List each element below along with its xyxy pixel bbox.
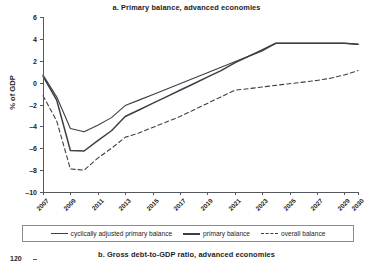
legend-label: cyclically adjusted primary balance — [71, 230, 173, 237]
x-tick-mark — [153, 192, 154, 195]
x-tick-mark — [70, 192, 71, 195]
x-tick-mark — [207, 192, 208, 195]
panel-b-title: b. Gross debt-to-GDP ratio, advanced eco… — [0, 250, 373, 259]
chart-legend: cyclically adjusted primary balanceprima… — [22, 225, 354, 242]
x-tick-mark — [43, 192, 44, 195]
panel-b-first-ytick-mark — [33, 259, 37, 260]
x-axis-ticks-panel-a: 2007200920112013201520172019202120232025… — [43, 192, 358, 224]
legend-label: primary balance — [203, 230, 250, 237]
x-tick-label: 2013 — [112, 197, 133, 218]
x-tick-label: 2023 — [249, 197, 270, 218]
panel-a-title: a. Primary balance, advanced economies — [0, 3, 373, 12]
x-tick-mark — [125, 192, 126, 195]
legend-label: overall balance — [281, 230, 325, 237]
y-tick-label: –2 — [29, 101, 37, 108]
x-tick-mark — [317, 192, 318, 195]
panel-b-first-ytick-label: 120 — [10, 255, 22, 262]
x-tick-label: 2017 — [166, 197, 187, 218]
x-tick-label: 2007 — [29, 197, 50, 218]
legend-item[interactable]: cyclically adjusted primary balance — [51, 230, 173, 237]
y-tick-label: 4 — [33, 35, 37, 42]
y-axis-ticks-panel-a: 6420–2–4–6–8–10 — [0, 17, 43, 192]
x-tick-label: 2025 — [276, 197, 297, 218]
x-tick-label: 2021 — [221, 197, 242, 218]
legend-swatch-icon — [183, 233, 200, 235]
y-tick-label: –6 — [29, 145, 37, 152]
x-tick-mark — [344, 192, 345, 195]
x-tick-label: 2011 — [84, 197, 105, 218]
y-tick-label: 0 — [33, 79, 37, 86]
legend-swatch-icon — [51, 233, 68, 234]
x-tick-label: 2027 — [303, 197, 324, 218]
x-tick-mark — [98, 192, 99, 195]
x-tick-mark — [290, 192, 291, 195]
legend-item[interactable]: overall balance — [261, 230, 325, 237]
legend-item[interactable]: primary balance — [183, 230, 250, 237]
x-tick-mark — [262, 192, 263, 195]
series-line-overall-balance — [43, 71, 358, 171]
y-tick-label: –10 — [25, 189, 37, 196]
y-tick-label: 2 — [33, 57, 37, 64]
series-line-primary-balance — [43, 43, 358, 151]
plot-area-panel-a — [43, 17, 358, 192]
x-tick-mark — [358, 192, 359, 195]
x-tick-mark — [180, 192, 181, 195]
x-tick-label: 2015 — [139, 197, 160, 218]
y-tick-label: –8 — [29, 167, 37, 174]
x-tick-label: 2009 — [57, 197, 78, 218]
legend-swatch-icon — [261, 233, 278, 234]
series-line-cyclically-adjusted-primary-balance — [43, 43, 358, 132]
line-chart-panel-a — [43, 17, 358, 192]
y-tick-label: 6 — [33, 14, 37, 21]
x-tick-label: 2019 — [194, 197, 215, 218]
y-axis-line — [43, 17, 44, 192]
x-tick-mark — [235, 192, 236, 195]
y-tick-label: –4 — [29, 123, 37, 130]
figure-container: a. Primary balance, advanced economies %… — [0, 0, 373, 264]
